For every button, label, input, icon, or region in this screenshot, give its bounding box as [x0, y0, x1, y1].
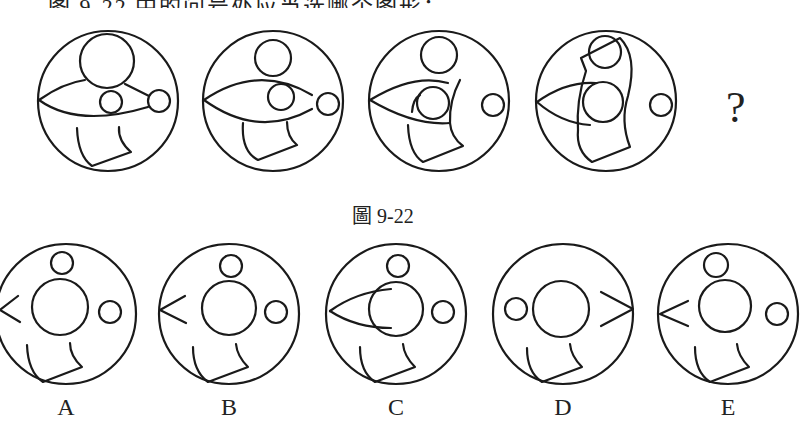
outer-circle: [159, 244, 299, 384]
line-stroke: [695, 344, 749, 382]
inner-circle: [583, 82, 623, 122]
line-stroke: [408, 123, 463, 162]
outer-circle: [203, 31, 343, 171]
outer-circle: [38, 31, 178, 171]
inner-circle: [417, 87, 449, 119]
inner-circle: [533, 281, 589, 337]
inner-circle: [148, 90, 170, 112]
inner-circle: [704, 253, 728, 277]
line-stroke: [360, 344, 415, 382]
sequence-figure-3: [369, 31, 509, 171]
option-figure-e[interactable]: [658, 244, 798, 384]
line-stroke: [660, 301, 688, 326]
inner-circle: [699, 280, 751, 332]
line-stroke: [204, 100, 312, 122]
inner-circle: [317, 93, 339, 115]
option-figure-d[interactable]: [493, 244, 633, 384]
option-label-d[interactable]: D: [548, 394, 578, 421]
inner-circle: [268, 84, 294, 110]
outer-circle: [326, 244, 466, 384]
line-stroke: [330, 289, 391, 311]
inner-circle: [100, 91, 122, 113]
line-stroke: [125, 84, 149, 96]
outer-circle: [369, 31, 509, 171]
inner-circle: [80, 34, 134, 88]
option-label-e[interactable]: E: [713, 394, 743, 421]
inner-circle: [505, 298, 527, 320]
line-stroke: [160, 296, 186, 323]
line-stroke: [537, 102, 590, 125]
inner-circle: [265, 301, 287, 323]
figure-caption: 圖 9-22: [352, 200, 414, 229]
option-label-c[interactable]: C: [381, 394, 411, 421]
option-figure-b[interactable]: [159, 244, 299, 384]
line-stroke: [204, 80, 312, 100]
sequence-figure-1: [38, 31, 178, 171]
outer-circle: [536, 31, 676, 171]
question-mark: ?: [726, 82, 746, 133]
line-stroke: [601, 292, 633, 326]
inner-circle: [99, 301, 121, 323]
line-stroke: [370, 80, 448, 100]
sequence-figure-4: [536, 31, 676, 171]
line-stroke: [39, 80, 85, 100]
inner-circle: [255, 40, 291, 76]
line-stroke: [527, 344, 582, 382]
inner-circle: [650, 94, 672, 116]
outer-circle: [0, 244, 136, 384]
inner-circle: [766, 303, 788, 325]
option-figure-a[interactable]: [0, 244, 136, 384]
sequence-figure-2: [203, 31, 343, 171]
line-stroke: [370, 100, 450, 123]
inner-circle: [421, 37, 457, 73]
inner-circle: [202, 281, 256, 335]
inner-circle: [32, 279, 88, 335]
inner-circle: [432, 301, 454, 323]
line-stroke: [39, 100, 148, 116]
line-stroke: [330, 311, 391, 328]
line-stroke: [27, 343, 82, 382]
line-stroke: [193, 344, 248, 382]
line-stroke: [243, 122, 297, 160]
line-stroke: [537, 83, 596, 102]
line-stroke: [450, 80, 460, 123]
inner-circle: [482, 94, 504, 116]
line-stroke: [0, 296, 20, 322]
inner-circle: [51, 252, 73, 274]
outer-circle: [493, 244, 633, 384]
option-label-b[interactable]: B: [214, 394, 244, 421]
puzzle-figure: ……图 9-22 中的问号处应当选哪个图形： ? 圖 9-22 ABCDE: [0, 0, 805, 421]
option-figure-c[interactable]: [326, 244, 466, 384]
line-stroke: [77, 127, 131, 166]
inner-circle: [387, 255, 409, 277]
inner-circle: [220, 255, 242, 277]
option-label-a[interactable]: A: [51, 394, 81, 421]
